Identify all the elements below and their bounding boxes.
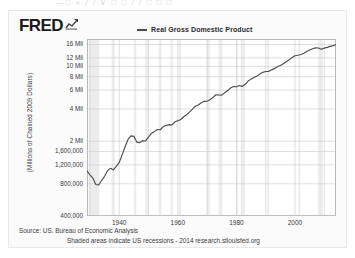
- y-axis-tick-label: 2 Mil: [70, 138, 83, 144]
- x-axis-tick-label: 1960: [171, 219, 185, 226]
- fred-logo: FRED: [19, 17, 63, 34]
- y-axis-tick-label: 10 Mil: [66, 63, 83, 69]
- legend-label: Real Gross Domestic Product: [151, 26, 253, 33]
- gdp-line-chart-svg: [87, 39, 336, 216]
- fred-chart-card: FRED Real Gross Domestic Product (Millio…: [8, 10, 347, 248]
- y-axis-tick-label: 8 Mil: [70, 74, 83, 80]
- x-axis-tick-label: 1940: [112, 219, 126, 226]
- plot-frame: [88, 40, 336, 216]
- cropped-browser-chrome-strip: —□ × / / ∨ □ □ / / □ □ □: [0, 0, 355, 9]
- y-axis-tick-label: 6 Mil: [70, 87, 83, 93]
- legend-swatch: [137, 29, 147, 31]
- y-axis-tick-label: 800,000: [60, 181, 83, 187]
- y-axis-tick-label: 12 Mil: [66, 55, 83, 61]
- source-line: Source: US. Bureau of Economic Analysis: [19, 227, 138, 234]
- recession-note-line: Shaded areas indicate US recessions - 20…: [67, 237, 260, 244]
- y-axis-tick-label: 1,200,000: [55, 162, 83, 168]
- cropped-chrome-ghost-text: —□ × / / ∨ □ □ / / □ □ □: [56, 0, 173, 7]
- x-axis-tick-label: 1980: [229, 219, 243, 226]
- x-axis-tick-label: 2000: [288, 219, 302, 226]
- y-axis-tick-labels: 400,000800,0001,200,0001,600,0002 Mil4 M…: [9, 39, 83, 216]
- chart-legend: Real Gross Domestic Product: [137, 26, 253, 33]
- y-axis-tick-label: 4 Mil: [70, 106, 83, 112]
- y-axis-tick-label: 16 Mil: [66, 41, 83, 47]
- y-axis-tick-label: 1,600,000: [55, 148, 83, 154]
- plot-area: [87, 39, 336, 216]
- y-axis-tick-label: 400,000: [60, 213, 83, 219]
- mini-line-chart-icon: [65, 19, 78, 30]
